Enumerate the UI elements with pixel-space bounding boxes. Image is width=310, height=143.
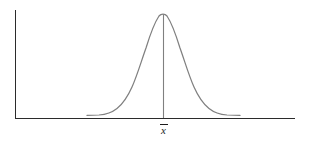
normal-distribution-figure: x	[0, 0, 310, 143]
mean-label-text: x	[160, 124, 166, 136]
mean-label: x	[160, 124, 168, 136]
figure-canvas: x	[0, 0, 310, 143]
